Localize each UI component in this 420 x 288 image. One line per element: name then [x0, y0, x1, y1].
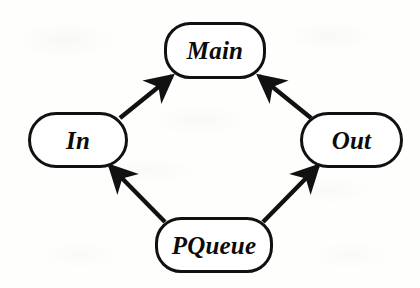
edge-out-to-main: [259, 76, 311, 118]
node-pqueue[interactable]: PQueue: [155, 217, 273, 273]
edge-pqueue-to-out: [263, 166, 318, 222]
node-main[interactable]: Main: [164, 22, 266, 79]
dependency-diagram: Main In Out PQueue: [0, 0, 420, 288]
node-in[interactable]: In: [28, 112, 128, 168]
node-in-label: In: [66, 128, 90, 153]
edge-pqueue-to-in: [110, 166, 165, 222]
node-pqueue-label: PQueue: [172, 233, 257, 258]
node-out[interactable]: Out: [300, 112, 403, 168]
node-main-label: Main: [187, 38, 243, 63]
edge-in-to-main: [120, 76, 172, 118]
node-out-label: Out: [332, 128, 372, 153]
